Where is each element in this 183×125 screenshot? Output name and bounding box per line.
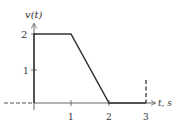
x-tick-label-2: 2 [106,112,112,122]
y-tick-label-1: 1 [23,66,29,76]
velocity-line [34,34,146,103]
y-axis-label: v(t) [25,9,43,20]
x-tick-label-3: 3 [143,112,149,122]
y-tick-label-2: 2 [21,29,27,40]
x-tick-label-1: 1 [68,112,74,122]
velocity-chart: v(t) t, s 2 1 1 2 3 [0,0,183,125]
x-axis-label: t, s [158,98,172,108]
